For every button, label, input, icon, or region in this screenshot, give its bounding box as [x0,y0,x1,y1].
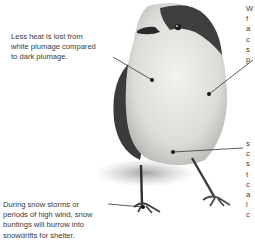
annotation-line: c [246,180,250,190]
annotation-right-bottom: s c s t c a l c [246,139,250,221]
annotation-snowdrift: During snow storms or periods of high wi… [3,200,93,241]
annotation-line: c [246,210,250,220]
annotation-line: white plumage compared [11,42,96,52]
annotation-line: s [246,159,250,169]
bird-leg-left [141,165,142,205]
leader-dot-right-top [207,92,211,96]
annotation-line: periods of high wind, snow [3,210,93,220]
annotation-line: W [246,4,253,14]
annotation-line: f [246,14,253,24]
bird-foot-left [134,203,160,213]
bird-leg-right [192,158,215,198]
bird-foot-right [203,197,230,207]
annotation-line: Less heat is lost from [11,32,96,42]
annotation-line: t [246,170,250,180]
annotation-line: During snow storms or [3,200,93,210]
leader-dot-plumage [150,78,154,82]
eye-highlight [176,25,178,27]
annotation-line: s [246,45,253,55]
annotation-line: s [246,139,250,149]
annotation-plumage: Less heat is lost from white plumage com… [11,32,96,63]
leader-dot-snowdrift [141,205,145,209]
annotation-line: p [246,55,253,65]
annotation-line: buntings will burrow into [3,220,93,230]
annotation-line: c [246,149,250,159]
annotation-line: a [246,24,253,34]
annotation-right-top: W f a c s p [246,4,253,65]
annotation-line: l [246,200,250,210]
annotation-line: a [246,190,250,200]
leader-dot-right-bottom [171,150,175,154]
annotation-line: c [246,35,253,45]
annotation-line: to dark plumage. [11,52,96,62]
bird-eye [175,24,181,30]
annotation-line: snowdrifts for shelter. [3,231,93,241]
